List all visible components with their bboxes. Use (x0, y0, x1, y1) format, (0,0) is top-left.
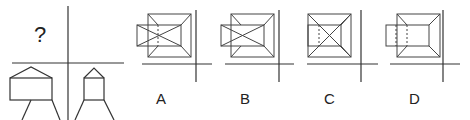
option-d-label[interactable]: D (409, 90, 420, 107)
side-view (75, 68, 114, 120)
option-a-figure[interactable] (137, 10, 212, 82)
option-b-label[interactable]: B (240, 90, 250, 107)
option-b-figure[interactable] (221, 10, 294, 82)
option-a-label[interactable]: A (156, 90, 166, 107)
three-view-diagram (0, 0, 470, 120)
option-c-figure[interactable] (307, 10, 378, 82)
question-mark: ? (34, 22, 46, 48)
front-view (10, 67, 60, 120)
question-grid (10, 6, 124, 120)
option-c-label[interactable]: C (324, 90, 335, 107)
option-d-figure[interactable] (386, 10, 460, 82)
